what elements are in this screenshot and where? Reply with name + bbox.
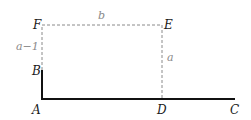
- edge-label-bf: a−1: [16, 40, 39, 53]
- edge-label-de: a: [167, 51, 174, 64]
- point-label-e: E: [163, 18, 173, 32]
- edge-label-fe: b: [98, 9, 105, 22]
- point-label-f: F: [32, 18, 42, 32]
- point-label-d: D: [156, 103, 167, 117]
- geometry-diagram: F E B A D C b a a−1: [0, 0, 251, 120]
- point-label-a: A: [31, 103, 41, 117]
- point-label-c: C: [230, 103, 239, 117]
- solid-lines: [41, 70, 235, 99]
- point-label-b: B: [31, 64, 41, 78]
- dashed-rectangle: [42, 25, 162, 99]
